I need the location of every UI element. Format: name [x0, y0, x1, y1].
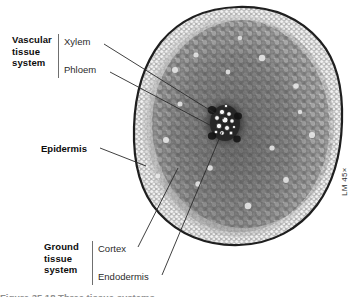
- magnification-label: LM 45×: [340, 167, 349, 196]
- ground-line-1: Ground: [44, 241, 79, 253]
- ground-tissue-system-label: Ground tissue system: [44, 241, 79, 276]
- figure-caption-cropped: Figure 35.18 Three tissue systems: [0, 292, 358, 297]
- phloem-label: Phloem: [64, 64, 96, 76]
- vascular-line-1: Vascular: [12, 34, 52, 46]
- ground-line-2: tissue: [44, 253, 79, 265]
- vascular-line-2: tissue: [12, 46, 52, 58]
- xylem-label: Xylem: [64, 36, 90, 48]
- endodermis-label: Endodermis: [98, 271, 149, 283]
- ground-brace-bar: [92, 241, 93, 285]
- vascular-brace-bar: [58, 34, 59, 78]
- epidermis-label: Epidermis: [41, 143, 87, 155]
- cortex-label: Cortex: [98, 243, 126, 255]
- label-layer: Vascular tissue system Xylem Phloem Epid…: [0, 0, 358, 297]
- vascular-line-3: system: [12, 57, 52, 69]
- vascular-tissue-system-label: Vascular tissue system: [12, 34, 52, 69]
- root-cross-section-figure: Vascular tissue system Xylem Phloem Epid…: [0, 0, 358, 297]
- ground-line-3: system: [44, 264, 79, 276]
